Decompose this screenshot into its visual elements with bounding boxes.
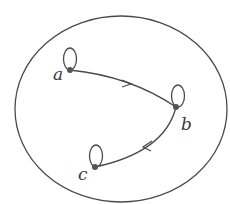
label-c: c (78, 164, 88, 184)
loop-c (90, 145, 103, 167)
graph-diagram: a b c (0, 0, 230, 204)
edge-a-b (70, 70, 176, 107)
arrowhead-a-b (122, 80, 131, 87)
edge-b-c (95, 107, 176, 167)
label-a: a (53, 64, 63, 84)
node-a (67, 67, 73, 73)
node-c (92, 164, 98, 170)
loop-a (64, 48, 77, 70)
set-ellipse (15, 16, 227, 202)
node-b (173, 104, 179, 110)
label-b: b (181, 114, 192, 134)
loop-b (172, 85, 185, 107)
